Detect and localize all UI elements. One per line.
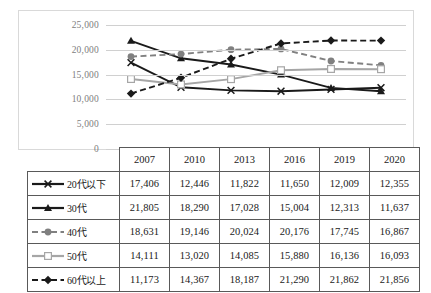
table-cell-value: 11,650	[270, 172, 320, 196]
table-cell-value: 21,856	[370, 268, 420, 292]
data-point-marker	[328, 66, 335, 73]
table-cell-value: 12,446	[170, 172, 220, 196]
table-column-header: 2007	[120, 148, 170, 172]
data-table-wrapper: 200720102013201620192020 20代以下17,40612,4…	[27, 147, 420, 292]
table-cell-value: 20,024	[220, 220, 270, 244]
gridline	[106, 25, 406, 26]
table-corner-cell	[28, 148, 120, 172]
series-line	[131, 63, 381, 92]
series-30代	[127, 37, 385, 94]
y-axis-tick-label: 10,000	[72, 94, 99, 104]
table-header-row: 200720102013201620192020	[28, 148, 420, 172]
table-cell-value: 21,862	[320, 268, 370, 292]
gridline	[106, 124, 406, 125]
table-cell-value: 14,367	[170, 268, 220, 292]
table-column-header: 2019	[320, 148, 370, 172]
data-point-marker	[44, 275, 52, 283]
table-column-header: 2010	[170, 148, 220, 172]
table-column-header: 2020	[370, 148, 420, 172]
data-point-marker	[128, 76, 135, 83]
legend-marker-x-icon	[31, 178, 65, 190]
legend-label-text: 30代	[67, 200, 86, 215]
data-point-marker	[128, 59, 135, 66]
legend-row-label: 60代以上	[28, 268, 120, 292]
data-point-marker	[278, 67, 285, 74]
table-cell-value: 16,136	[320, 244, 370, 268]
data-point-marker	[127, 89, 135, 97]
data-point-marker	[45, 252, 52, 259]
table-cell-value: 12,009	[320, 172, 370, 196]
data-point-marker	[45, 228, 52, 235]
data-point-marker	[227, 55, 235, 63]
legend-row-label: 40代	[28, 220, 120, 244]
table-cell-value: 13,020	[170, 244, 220, 268]
table-cell-value: 21,290	[270, 268, 320, 292]
table-cell-value: 14,111	[120, 244, 170, 268]
legend-label-text: 40代	[67, 224, 86, 239]
data-point-marker	[327, 36, 335, 44]
y-axis-tick-label: 25,000	[72, 20, 99, 30]
gridline	[106, 99, 406, 100]
table-cell-value: 20,176	[270, 220, 320, 244]
legend-row-label: 20代以下	[28, 172, 120, 196]
data-point-marker	[228, 76, 235, 83]
table-cell-value: 12,313	[320, 196, 370, 220]
data-point-marker	[127, 37, 135, 44]
table-cell-value: 15,880	[270, 244, 320, 268]
legend-row-label: 50代	[28, 244, 120, 268]
gridline	[106, 75, 406, 76]
legend-marker-diamond-icon	[31, 274, 65, 286]
plot-area	[106, 25, 406, 149]
table-cell-value: 11,173	[120, 268, 170, 292]
table-cell-value: 19,146	[170, 220, 220, 244]
data-point-marker	[328, 58, 335, 65]
data-point-marker	[277, 39, 285, 47]
table-row: 60代以上11,17314,36718,18721,29021,86221,85…	[28, 268, 420, 292]
line-chart: 05,00010,00015,00020,00025,000	[18, 10, 414, 150]
data-point-marker	[378, 66, 385, 73]
table-cell-value: 18,290	[170, 196, 220, 220]
table-body: 20代以下17,40612,44611,82211,65012,00912,35…	[28, 172, 420, 292]
data-point-marker	[178, 51, 185, 58]
legend-marker-triangle-icon	[31, 202, 65, 214]
legend-row-label: 30代	[28, 196, 120, 220]
legend-marker-square-open-icon	[31, 250, 65, 262]
table-cell-value: 15,004	[270, 196, 320, 220]
table-cell-value: 17,745	[320, 220, 370, 244]
legend-label-text: 20代以下	[67, 176, 106, 191]
y-axis: 05,00010,00015,00020,00025,000	[19, 11, 103, 151]
table-cell-value: 11,822	[220, 172, 270, 196]
series-line	[131, 49, 381, 65]
table-row: 30代21,80518,29017,02815,00412,31311,637	[28, 196, 420, 220]
y-axis-tick-label: 5,000	[77, 119, 99, 129]
table-cell-value: 21,805	[120, 196, 170, 220]
chart-and-table-figure: 05,00010,00015,00020,00025,000 200720102…	[0, 0, 431, 293]
table-cell-value: 11,637	[370, 196, 420, 220]
table-cell-value: 14,085	[220, 244, 270, 268]
data-table: 200720102013201620192020 20代以下17,40612,4…	[27, 147, 420, 292]
y-axis-tick-label: 20,000	[72, 45, 99, 55]
chart-svg	[106, 25, 406, 149]
legend-label-text: 60代以上	[67, 272, 106, 287]
gridline	[106, 50, 406, 51]
legend-marker-circle-icon	[31, 226, 65, 238]
y-axis-tick-label: 15,000	[72, 70, 99, 80]
table-row: 40代18,63119,14620,02420,17617,74516,867	[28, 220, 420, 244]
table-cell-value: 18,631	[120, 220, 170, 244]
table-cell-value: 17,406	[120, 172, 170, 196]
table-row: 50代14,11113,02014,08515,88016,13616,093	[28, 244, 420, 268]
table-row: 20代以下17,40612,44611,82211,65012,00912,35…	[28, 172, 420, 196]
legend-label-text: 50代	[67, 248, 86, 263]
table-cell-value: 16,867	[370, 220, 420, 244]
data-point-marker	[128, 53, 135, 60]
table-cell-value: 18,187	[220, 268, 270, 292]
table-cell-value: 17,028	[220, 196, 270, 220]
data-point-marker	[377, 36, 385, 44]
table-column-header: 2013	[220, 148, 270, 172]
table-column-header: 2016	[270, 148, 320, 172]
table-cell-value: 16,093	[370, 244, 420, 268]
table-cell-value: 12,355	[370, 172, 420, 196]
data-point-marker	[178, 81, 185, 88]
